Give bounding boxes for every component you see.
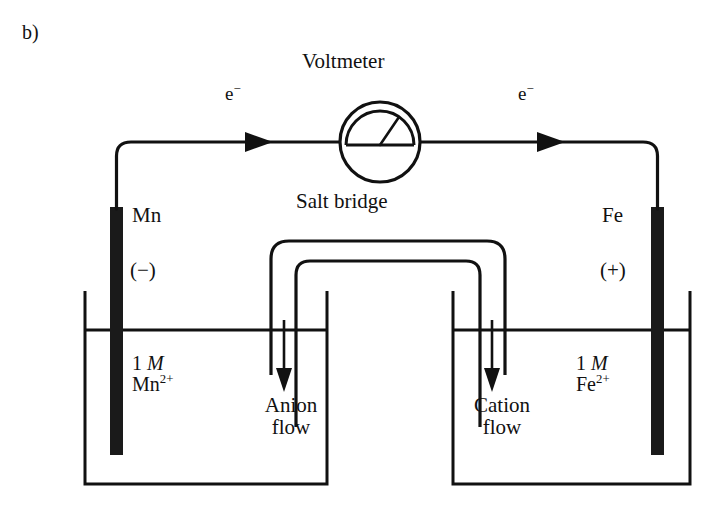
electron-charge-right: − [526, 81, 533, 96]
right-ion-formula: Fe2+ [576, 374, 610, 395]
fe-electrode [651, 207, 664, 455]
panel-label: b) [22, 22, 39, 43]
electron-flow-arrow-left [245, 132, 273, 152]
right-wire [420, 142, 658, 209]
anion-flow-arrowhead [276, 368, 292, 392]
electron-flow-arrow-right [537, 132, 565, 152]
voltmeter-label: Voltmeter [302, 50, 384, 72]
anion-flow-label-line1: Anion [265, 393, 318, 417]
mn-electrode-label: Mn [132, 204, 161, 226]
left-solution-label: 1 M Mn2+ [132, 353, 173, 395]
left-concentration-value: 1 [132, 352, 142, 374]
cation-flow-label-line1: Cation [474, 393, 530, 417]
salt-bridge-label: Salt bridge [296, 190, 388, 212]
left-ion-symbol: Mn [132, 373, 160, 395]
left-concentration-unit: M [147, 352, 164, 374]
electron-label-left: e− [225, 84, 241, 104]
electron-charge-left: − [233, 81, 240, 96]
right-concentration-value: 1 [576, 352, 586, 374]
voltmeter-body-icon [340, 102, 420, 182]
anion-flow-label: Anion flow [243, 394, 339, 438]
mn-polarity-label: (−) [130, 259, 156, 281]
right-ion-symbol: Fe [576, 373, 596, 395]
electron-label-right: e− [518, 84, 534, 104]
fe-polarity-label: (+) [600, 259, 626, 281]
anion-flow-label-line2: flow [243, 416, 339, 438]
left-ion-formula: Mn2+ [132, 374, 173, 395]
right-concentration-unit: M [591, 352, 608, 374]
right-solution-label: 1 M Fe2+ [576, 353, 610, 395]
left-ion-charge: 2+ [160, 372, 174, 386]
cation-flow-arrowhead [484, 368, 500, 392]
cell-diagram-svg [0, 0, 726, 512]
galvanic-cell-figure: b) Voltmeter Salt bridge e− e− Mn (−) Fe… [0, 0, 726, 512]
cation-flow-label: Cation flow [450, 394, 554, 438]
fe-electrode-label: Fe [602, 204, 623, 226]
mn-electrode [110, 207, 123, 455]
right-ion-charge: 2+ [596, 372, 610, 386]
cation-flow-label-line2: flow [450, 416, 554, 438]
